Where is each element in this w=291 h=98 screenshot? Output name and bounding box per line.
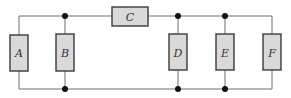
- resistor-e-label: E: [220, 47, 229, 60]
- resistor-e: E: [216, 34, 234, 70]
- junction-node-top-e: [222, 13, 228, 19]
- resistor-c-label: C: [126, 11, 135, 24]
- resistor-a: A: [10, 35, 28, 71]
- resistor-f-label: F: [267, 47, 276, 60]
- bottom-wire: [19, 70, 272, 89]
- junction-node-bottom-b: [62, 86, 68, 92]
- junction-node-top-d: [175, 13, 181, 19]
- junction-node-bottom-e: [222, 86, 228, 92]
- junction-node-top-b: [62, 13, 68, 19]
- resistor-a-label: A: [14, 47, 23, 60]
- junction-node-bottom-d: [175, 86, 181, 92]
- circuit-diagram: A B C D E F: [0, 0, 291, 98]
- resistor-d: D: [169, 34, 187, 70]
- top-wire-right: [148, 16, 272, 34]
- resistor-b: B: [56, 34, 74, 71]
- resistor-b-label: B: [60, 47, 69, 60]
- resistor-f: F: [263, 34, 281, 70]
- resistor-c: C: [112, 7, 148, 26]
- resistor-d-label: D: [173, 47, 183, 60]
